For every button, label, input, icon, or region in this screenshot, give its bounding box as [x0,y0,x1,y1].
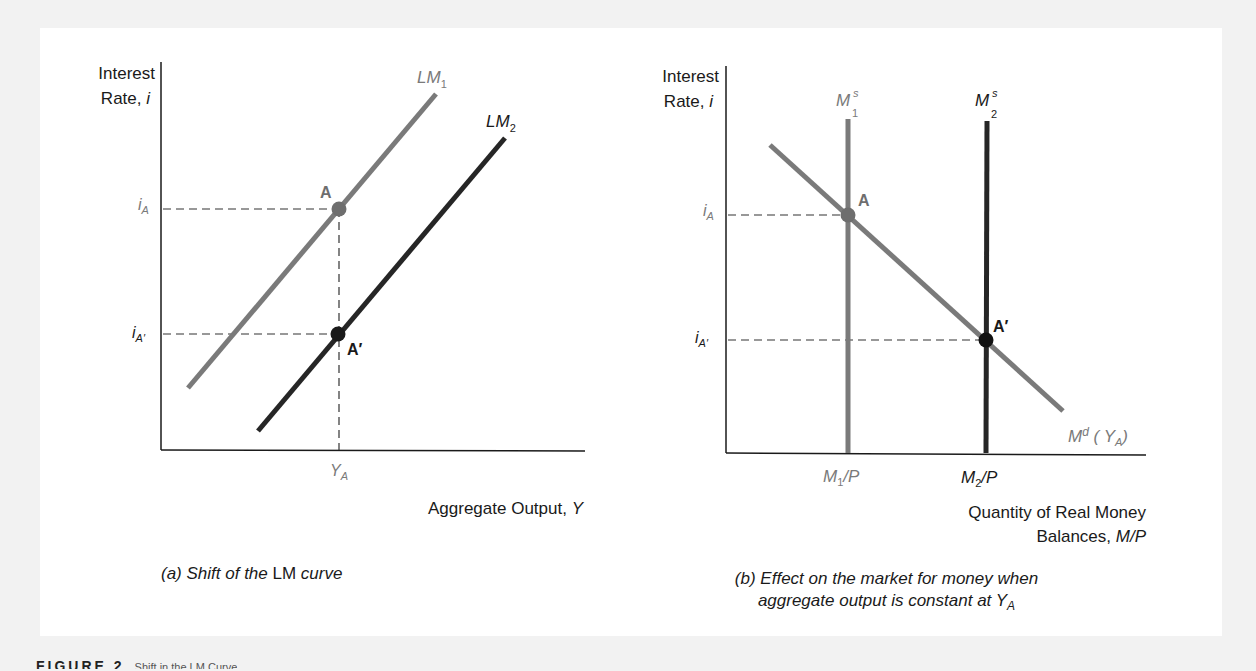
caption-a: (a) Shift of the LM curve [161,563,342,585]
chart-b-x-label-1: Quantity of Real Money [968,503,1146,522]
point-b-a-marker [841,208,856,223]
money-demand-label: Md ( YA) [1068,425,1128,448]
chart-b-y-label-1: Interest [662,67,719,86]
lm1-curve [188,94,436,388]
chart-b-tick-iA: iA [703,202,714,222]
chart-a-y-label-1: Interest [98,64,155,83]
money-demand-curve [770,145,1063,411]
caption-a-lm: LM [273,564,297,583]
svg-text:2: 2 [991,108,997,120]
chart-a-y-label-2: Rate, i [101,89,151,108]
point-b-a-prime-marker [979,333,994,348]
tick-M1P: M1/P [823,467,860,488]
money-supply-1-label: M s 1 [836,87,859,119]
chart-b: Interest Rate, i M s 1 M s 2 A A′ iA iA′… [662,66,1146,546]
point-a-prime-marker [331,327,346,342]
chart-b-x-axis [726,453,1146,455]
svg-text:s: s [992,87,998,99]
caption-a-suffix: curve [296,564,342,583]
point-b-a-prime-label: A′ [993,318,1009,335]
caption-b: (b) Effect on the market for money when … [724,568,1049,617]
svg-text:1: 1 [852,107,858,119]
chart-b-tick-iAp: iA′ [695,329,709,349]
tick-YA: YA [330,462,348,482]
tick-iA: iA [138,196,149,216]
chart-a-x-label: Aggregate Output, Y [428,499,585,518]
svg-text:M: M [975,91,990,110]
lm2-curve [258,138,505,431]
caption-b-line1: (b) Effect on the market for money when [724,568,1049,590]
point-b-a-label: A [858,192,870,209]
tick-iAp: iA′ [132,324,146,344]
chart-b-y-label-2: Rate, i [664,92,714,111]
caption-a-prefix: (a) Shift of the [161,564,273,583]
svg-text:M: M [836,91,851,110]
point-a-marker [332,202,347,217]
point-a-prime-label: A′ [347,341,363,358]
chart-b-x-label-2: Balances, M/P [1036,527,1146,546]
lm2-label: LM2 [486,112,516,134]
caption-b-line2: aggregate output is constant at YA [724,590,1049,617]
chart-a-x-axis [161,450,585,451]
chart-a: Interest Rate, i LM1 LM2 A A′ iA iA′ YA … [98,62,585,518]
money-supply-2-curve [986,121,987,453]
lm1-label: LM1 [417,68,447,90]
point-a-label: A [320,184,332,201]
money-supply-2-label: M s 2 [975,87,998,120]
svg-text:s: s [853,87,859,99]
tick-M2P: M2/P [961,468,998,489]
